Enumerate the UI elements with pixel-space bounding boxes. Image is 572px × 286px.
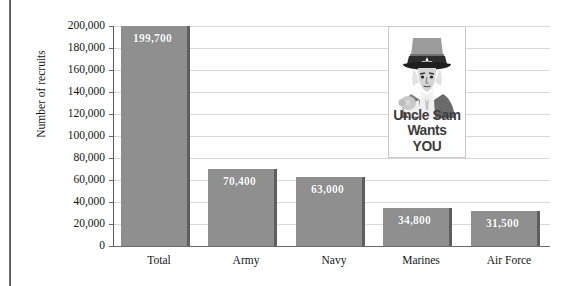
x-axis-line xyxy=(113,246,550,247)
y-tick-label: 100,000 xyxy=(0,130,105,142)
uncle-sam-illustration-icon xyxy=(389,30,465,118)
bar-value-label: 31,500 xyxy=(471,217,534,229)
y-axis-line xyxy=(113,26,114,247)
bar-total: 199,700 xyxy=(121,26,190,246)
y-tick-label: 0 xyxy=(0,240,105,252)
y-tick-label: 60,000 xyxy=(0,174,105,186)
bar-value-label: 70,400 xyxy=(208,175,271,187)
y-tick-label: 140,000 xyxy=(0,86,105,98)
x-tick-label-navy: Navy xyxy=(288,254,380,266)
poster-caption-line2: Wants YOU xyxy=(392,122,462,153)
chart-figure: Number of recruits 200,000 180,000 160,0… xyxy=(0,0,572,286)
bar-value-label: 199,700 xyxy=(121,32,184,44)
bar-army: 70,400 xyxy=(208,169,277,246)
y-tick-label: 200,000 xyxy=(0,20,105,32)
x-tick-label-total: Total xyxy=(113,254,205,266)
uncle-sam-poster: Uncle Sam Wants YOU xyxy=(388,26,466,158)
poster-caption-line1: Uncle Sam xyxy=(392,107,462,122)
plot-area: 199,700 70,400 63,000 34,800 31,500 xyxy=(113,26,550,246)
x-tick-label-army: Army xyxy=(200,254,292,266)
bar-value-label: 34,800 xyxy=(383,214,446,226)
x-tick-label-marines: Marines xyxy=(375,254,467,266)
poster-caption: Uncle Sam Wants YOU xyxy=(389,107,465,153)
y-tick-label: 20,000 xyxy=(0,218,105,230)
y-axis-tick-labels: 200,000 180,000 160,000 140,000 120,000 … xyxy=(0,0,105,286)
y-tick-label: 80,000 xyxy=(0,152,105,164)
x-tick-label-air-force: Air Force xyxy=(463,254,555,266)
bar-value-label: 63,000 xyxy=(296,183,359,195)
y-tick-label: 160,000 xyxy=(0,64,105,76)
bar-air-force: 31,500 xyxy=(471,211,540,246)
bar-marines: 34,800 xyxy=(383,208,452,246)
y-tick-label: 40,000 xyxy=(0,196,105,208)
y-tick-label: 180,000 xyxy=(0,42,105,54)
bar-navy: 63,000 xyxy=(296,177,365,246)
y-tick-label: 120,000 xyxy=(0,108,105,120)
